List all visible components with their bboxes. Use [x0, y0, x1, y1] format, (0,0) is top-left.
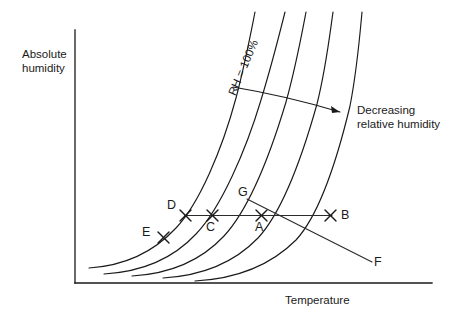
marker-point-e — [158, 232, 169, 243]
point-label-c: C — [206, 220, 215, 235]
decreasing-label-line2: relative humidity — [357, 117, 440, 131]
point-label-d: D — [167, 198, 176, 213]
sweep-arrow-head — [331, 106, 340, 113]
y-axis-label: Absolute humidity — [22, 47, 67, 75]
point-label-b: B — [341, 208, 349, 223]
point-label-g: G — [238, 185, 248, 200]
psychrometric-chart-figure: Absolute humidity Temperature RH = 100% … — [0, 0, 463, 316]
process-line-g-to-f — [247, 199, 372, 262]
rh-curve-3 — [132, 12, 306, 276]
process-line-gf-group — [247, 199, 372, 262]
y-axis-label-line2: humidity — [22, 61, 67, 75]
decreasing-label-line1: Decreasing — [357, 103, 440, 117]
point-label-a: A — [255, 220, 263, 235]
point-label-f: F — [374, 255, 382, 270]
y-axis-label-line1: Absolute — [22, 47, 67, 61]
x-axis-label: Temperature — [285, 293, 350, 307]
chart-svg — [0, 0, 463, 316]
relative-humidity-curves — [89, 12, 362, 281]
point-label-e: E — [142, 225, 150, 240]
decreasing-relative-humidity-label: Decreasing relative humidity — [357, 103, 440, 131]
axes-group — [75, 30, 432, 283]
